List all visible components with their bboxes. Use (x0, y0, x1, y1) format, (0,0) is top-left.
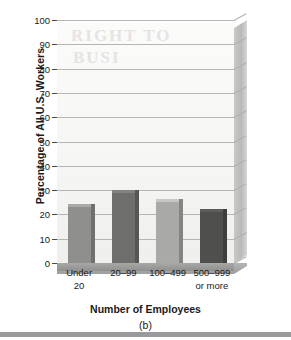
bar-chart-figure: Percentage of All U.S. Workers RIGHT TO … (0, 0, 291, 340)
gridline-60 (57, 117, 234, 118)
y-tick-label-20: 20 (39, 209, 50, 220)
category-line1: 100–499 (149, 267, 186, 278)
y-tick-60 (52, 117, 57, 118)
y-tick-100 (52, 20, 57, 21)
y-tick-80 (52, 69, 57, 70)
page-bleedthrough-line1: RIGHT TO (71, 26, 172, 46)
bar-top (112, 190, 135, 193)
category-line1: 500–999 (193, 267, 230, 278)
panel-label: (b) (0, 319, 291, 331)
x-category-label-3: 100–499 (146, 267, 190, 280)
gridline-30 (57, 190, 234, 191)
bar-side (135, 190, 139, 263)
y-tick-label-100: 100 (34, 15, 50, 26)
bar-4 (200, 212, 223, 263)
bar-top (68, 204, 91, 207)
x-category-label-1: Under20 (57, 267, 101, 292)
category-line1: Under (66, 267, 92, 278)
bar-face (156, 202, 179, 263)
bar-2 (112, 193, 135, 263)
gridline-70 (57, 93, 234, 94)
bar-side (223, 209, 227, 263)
gridline-100 (57, 20, 234, 21)
category-line2: or more (190, 280, 234, 293)
gridline-50 (57, 142, 234, 143)
gridline-depth-100 (234, 13, 247, 21)
category-line1: 20–99 (110, 267, 136, 278)
bar-3 (156, 202, 179, 263)
y-tick-90 (52, 44, 57, 45)
x-axis-title: Number of Employees (0, 303, 291, 315)
y-tick-20 (52, 214, 57, 215)
y-tick-70 (52, 93, 57, 94)
y-tick-label-70: 70 (39, 87, 50, 98)
y-axis-title: Percentage of All U.S. Workers (34, 26, 46, 226)
gridline-80 (57, 69, 234, 70)
bar-top (156, 199, 179, 202)
bar-1 (68, 207, 91, 263)
y-tick-label-80: 80 (39, 63, 50, 74)
y-tick-label-90: 90 (39, 39, 50, 50)
y-tick-label-40: 40 (39, 160, 50, 171)
y-tick-label-10: 10 (39, 233, 50, 244)
page-bottom-rule (0, 332, 291, 337)
plot-area: RIGHT TO BUSI 0102030405060708090100 (57, 20, 234, 263)
bar-face (68, 207, 91, 263)
category-line2: 20 (57, 280, 101, 293)
y-tick-label-60: 60 (39, 112, 50, 123)
y-tick-30 (52, 190, 57, 191)
y-tick-50 (52, 142, 57, 143)
bar-top (200, 209, 223, 212)
gridline-40 (57, 166, 234, 167)
y-tick-label-30: 30 (39, 185, 50, 196)
y-tick-label-50: 50 (39, 136, 50, 147)
page-bleedthrough-line2: BUSI (73, 48, 121, 68)
bar-face (200, 212, 223, 263)
y-tick-40 (52, 166, 57, 167)
y-tick-label-0: 0 (45, 258, 50, 269)
gridline-90 (57, 44, 234, 45)
y-tick-10 (52, 239, 57, 240)
x-category-label-4: 500–999or more (190, 267, 234, 292)
x-category-label-2: 20–99 (101, 267, 145, 280)
bar-face (112, 193, 135, 263)
bar-side (179, 199, 183, 263)
bar-side (91, 204, 95, 263)
